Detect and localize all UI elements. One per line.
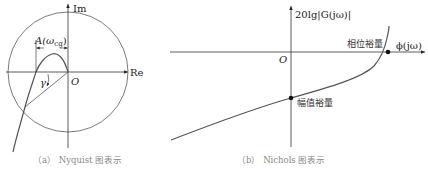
nichols-origin-label: O [279,54,287,65]
nyquist-plot: Im Re O γ A(ωcg) （a） Nyquist 图表示 [6,3,144,165]
nichols-y-label: 20lg|G(jω)| [295,9,351,21]
phase-margin-point [386,50,391,55]
nyquist-caption: （a） Nyquist 图表示 [33,155,122,165]
nyquist-curve [13,54,68,152]
nichols-caption: （b） Nichols 图表示 [237,155,325,165]
gamma-label: γ [40,77,46,88]
gamma-arc [47,74,49,86]
im-axis-label: Im [73,3,87,14]
gain-margin-label: 幅值裕量 [297,97,333,108]
re-axis-label: Re [130,67,144,78]
amplitude-label: A(ωcg) [34,35,67,48]
nichols-plot: 20lg|G(jω)| ϕ(jω) O 相位裕量 幅值裕量 （b） Nichol… [170,6,425,165]
gain-margin-point [289,96,294,101]
diagram-canvas: Im Re O γ A(ωcg) （a） Nyquist 图表示 20lg|G(… [0,0,428,171]
phase-margin-line [25,72,68,107]
phase-margin-label: 相位裕量 [347,38,383,49]
nyquist-origin-label: O [71,76,79,87]
nichols-x-label: ϕ(jω) [396,40,422,51]
